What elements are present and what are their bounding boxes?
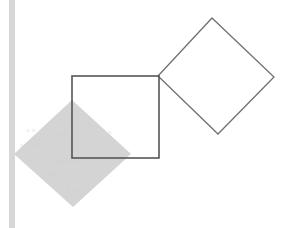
geometry-figure [0, 0, 299, 228]
figure-canvas: a na t ano i n itn oo n t na n1 2 3 [0, 0, 299, 228]
left-margin-scan-strip [9, 0, 15, 228]
background-rect [0, 0, 299, 228]
